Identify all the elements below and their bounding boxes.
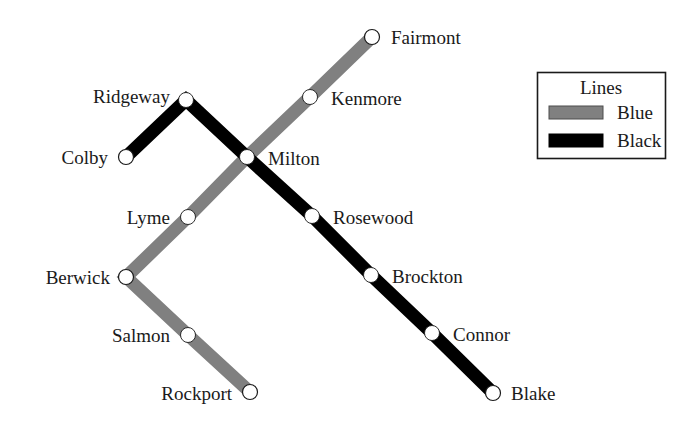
station-marker-brockton[interactable] — [364, 268, 379, 283]
station-label-brockton: Brockton — [392, 266, 463, 287]
station-label-kenmore: Kenmore — [331, 88, 402, 109]
station-marker-rockport[interactable] — [243, 385, 258, 400]
station-marker-rosewood[interactable] — [305, 209, 320, 224]
station-marker-fairmont[interactable] — [365, 30, 380, 45]
legend-title: Lines — [580, 77, 622, 98]
station-label-blake: Blake — [511, 383, 555, 404]
station-marker-kenmore[interactable] — [303, 90, 318, 105]
station-marker-connor[interactable] — [425, 326, 440, 341]
legend-swatch-black[interactable] — [549, 134, 603, 147]
legend-label-black: Black — [617, 130, 662, 151]
legend-label-blue: Blue — [617, 102, 653, 123]
transit-map-diagram: FairmontKenmoreRidgewayColbyMiltonLymeRo… — [0, 0, 695, 432]
line-path-black[interactable] — [126, 100, 493, 393]
station-marker-salmon[interactable] — [181, 328, 196, 343]
station-marker-blake[interactable] — [486, 386, 501, 401]
station-marker-colby[interactable] — [119, 150, 134, 165]
station-label-colby: Colby — [62, 147, 109, 168]
legend-swatch-blue[interactable] — [549, 106, 603, 119]
station-label-rosewood: Rosewood — [333, 207, 414, 228]
station-label-lyme: Lyme — [127, 207, 170, 228]
station-label-salmon: Salmon — [112, 325, 171, 346]
station-label-rockport: Rockport — [161, 383, 232, 404]
station-marker-milton[interactable] — [240, 150, 255, 165]
station-label-connor: Connor — [453, 324, 511, 345]
station-marker-berwick[interactable] — [119, 270, 134, 285]
station-label-fairmont: Fairmont — [391, 27, 461, 48]
map-canvas: FairmontKenmoreRidgewayColbyMiltonLymeRo… — [0, 0, 695, 432]
station-label-milton: Milton — [268, 148, 320, 169]
station-labels-group: FairmontKenmoreRidgewayColbyMiltonLymeRo… — [46, 27, 556, 404]
station-label-berwick: Berwick — [46, 267, 111, 288]
legend: LinesBlueBlack — [538, 73, 666, 159]
station-marker-ridgeway[interactable] — [179, 93, 194, 108]
station-marker-lyme[interactable] — [181, 210, 196, 225]
station-label-ridgeway: Ridgeway — [93, 86, 171, 107]
